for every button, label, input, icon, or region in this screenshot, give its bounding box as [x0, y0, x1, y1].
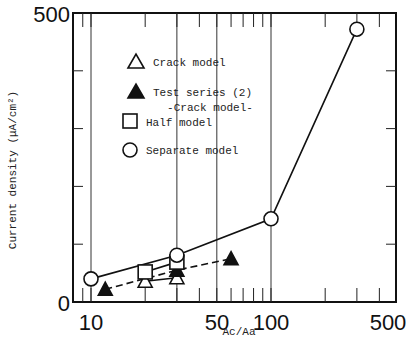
circle-open-marker	[170, 248, 184, 262]
legend-item-test-series: Test series (2)	[128, 84, 252, 99]
svg-text:Crack model: Crack model	[153, 57, 226, 69]
x-tick-10: 10	[79, 310, 103, 335]
triangle-filled-icon	[128, 84, 144, 98]
svg-text:Half model: Half model	[146, 117, 212, 129]
svg-text:Test series (2): Test series (2)	[153, 87, 252, 99]
crack-model-annotation: -Crack model-	[167, 102, 253, 114]
x-tick-100: 100	[253, 310, 290, 335]
y-tick-500: 500	[33, 2, 70, 27]
series-line-test-series-2	[105, 259, 231, 290]
circle-open-icon	[123, 143, 137, 157]
circle-open-marker	[350, 22, 364, 36]
x-tick-500: 500	[370, 310, 407, 335]
x-axis-label: Ac/Aa	[222, 326, 255, 337]
svg-text:Separate model: Separate model	[146, 145, 238, 157]
chart: 500 0 10 50 100 500 Ac/Aa Current densit…	[0, 0, 411, 337]
legend-item-half-model: Half model	[123, 114, 212, 129]
square-open-marker	[138, 265, 152, 279]
circle-open-marker	[84, 272, 98, 286]
y-axis-label: Current density (μA/cm²)	[7, 91, 19, 249]
legend-item-separate-model: Separate model	[123, 143, 238, 157]
legend-item-crack-model: Crack model	[128, 54, 226, 69]
y-tick-0: 0	[58, 291, 70, 316]
square-open-icon	[123, 114, 137, 128]
triangle-open-icon	[128, 54, 144, 68]
triangle-filled-marker	[224, 252, 238, 265]
circle-open-marker	[264, 212, 278, 226]
